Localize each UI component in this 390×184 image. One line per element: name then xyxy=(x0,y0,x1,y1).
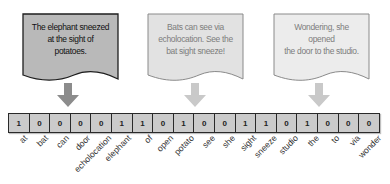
document-text: Wondering, she opened the door to the st… xyxy=(282,21,360,57)
vector-cell-sneeze: 1 xyxy=(256,114,277,132)
down-arrow-icon xyxy=(57,83,79,107)
document-text: Bats can see via echolocation. See the b… xyxy=(156,21,234,57)
document-card-2: Bats can see via echolocation. See the b… xyxy=(147,13,244,83)
down-arrow-icon xyxy=(184,83,206,107)
vector-cell-elephant: 1 xyxy=(112,114,133,132)
vector-cell-see: 0 xyxy=(194,114,215,132)
vector-cell-echolocation: 0 xyxy=(91,114,112,132)
vocab-label-via: via xyxy=(347,133,362,148)
vocab-label-the: the xyxy=(305,133,321,149)
vector-cell-can: 0 xyxy=(50,114,71,132)
vocab-label-studio: studio xyxy=(277,133,300,156)
vector-cell-via: 0 xyxy=(339,114,360,132)
vector-cell-the: 1 xyxy=(297,114,318,132)
document-text-line: Bats can see via xyxy=(156,21,234,33)
vocab-label-to: to xyxy=(329,133,341,145)
vector-cell-door: 0 xyxy=(71,114,92,132)
vocab-label-she: she xyxy=(220,133,237,150)
vector-cell-open: 0 xyxy=(153,114,174,132)
vocab-label-can: can xyxy=(54,133,71,150)
document-card-3: Wondering, she opened the door to the st… xyxy=(273,13,370,83)
document-text-line: echolocation. See the xyxy=(156,33,234,45)
vector-cell-at: 1 xyxy=(9,114,30,132)
vocab-label-see: see xyxy=(200,133,217,150)
vector-cell-sight: 1 xyxy=(236,114,257,132)
document-text-line: at the sight of potatoes. xyxy=(31,33,109,57)
bag-of-words-vector: 1 0 0 0 0 1 1 0 1 0 0 1 1 0 1 0 0 0 xyxy=(8,113,380,133)
vector-cell-she: 0 xyxy=(215,114,236,132)
document-text-line: Wondering, she opened xyxy=(282,21,360,45)
vector-cell-to: 0 xyxy=(318,114,339,132)
vector-cell-bat: 0 xyxy=(30,114,51,132)
vocab-label-wonder: wonder xyxy=(356,133,383,160)
document-text-line: the door to the studio. xyxy=(282,45,360,57)
document-text-line: bat sight sneeze! xyxy=(156,45,234,57)
document-text-line: The elephant sneezed xyxy=(31,21,109,33)
vector-cell-potato: 1 xyxy=(174,114,195,132)
vocab-label-at: at xyxy=(17,133,29,145)
document-card-1: The elephant sneezed at the sight of pot… xyxy=(22,13,119,83)
vector-cell-of: 1 xyxy=(133,114,154,132)
document-text: The elephant sneezed at the sight of pot… xyxy=(31,21,109,57)
vocab-label-of: of xyxy=(142,133,154,145)
down-arrow-icon xyxy=(308,83,330,107)
vocab-label-potato: potato xyxy=(172,133,196,157)
vector-cell-wonder: 0 xyxy=(359,114,379,132)
vector-cell-studio: 0 xyxy=(277,114,298,132)
vocab-label-bat: bat xyxy=(35,133,51,149)
